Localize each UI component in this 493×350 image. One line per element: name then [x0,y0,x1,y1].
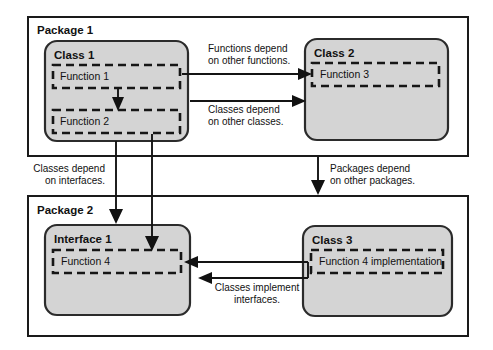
class-1-label: Class 1 [54,49,95,61]
class-2[interactable]: Class 2 Function 3 [305,39,448,140]
label-packages-depend-line1: Packages depend [330,163,410,174]
class-2-label: Class 2 [314,47,354,59]
dependency-diagram: Package 1 Class 1 Function 1 Function 2 [0,0,493,350]
label-classes-depend-on-classes: Classes depend on other classes. [208,104,284,127]
label-functions-depend-line1: Functions depend [208,43,288,54]
class-3[interactable]: Class 3 Function 4 implementation [303,226,452,316]
function-1-label: Function 1 [60,70,109,82]
label-functions-depend-on-functions: Functions depend on other functions. [208,43,290,66]
edge-package1-to-package2 [311,157,325,195]
package-2-label: Package 2 [37,204,93,216]
function-2-label: Function 2 [60,115,109,127]
label-classes-depend-line1: Classes depend [208,104,280,115]
function-4-implementation-label: Function 4 implementation [319,255,442,267]
label-functions-depend-line2: on other functions. [208,55,290,66]
label-packages-depend-on-packages: Packages depend on other packages. [330,163,415,186]
label-classes-implement-line1: Classes implement [215,282,300,293]
label-classes-depend-line2: on other classes. [208,116,284,127]
label-classes-interfaces-line1: Classes depend [33,163,105,174]
interface-1[interactable]: Interface 1 Function 4 [45,225,190,315]
label-classes-interfaces-line2: on interfaces. [45,175,105,186]
label-classes-implement-line2: interfaces. [234,294,280,305]
diagram-canvas: Package 1 Class 1 Function 1 Function 2 [0,0,493,350]
class-3-label: Class 3 [312,234,352,246]
function-4-label: Function 4 [61,255,110,267]
label-packages-depend-line2: on other packages. [330,175,415,186]
function-3-label: Function 3 [320,68,369,80]
label-classes-depend-on-interfaces: Classes depend on interfaces. [33,163,105,186]
class-1[interactable]: Class 1 Function 1 Function 2 [45,41,188,141]
package-1-label: Package 1 [37,24,94,36]
interface-1-label: Interface 1 [54,233,112,245]
